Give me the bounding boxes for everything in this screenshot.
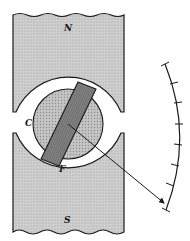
- galvanometer-diagram: N S C F: [0, 0, 190, 241]
- label-core: C: [25, 118, 33, 128]
- label-coil: F: [58, 164, 66, 174]
- label-north-pole: N: [63, 23, 73, 33]
- label-south-pole: S: [64, 215, 71, 225]
- scale-arc: [165, 64, 180, 210]
